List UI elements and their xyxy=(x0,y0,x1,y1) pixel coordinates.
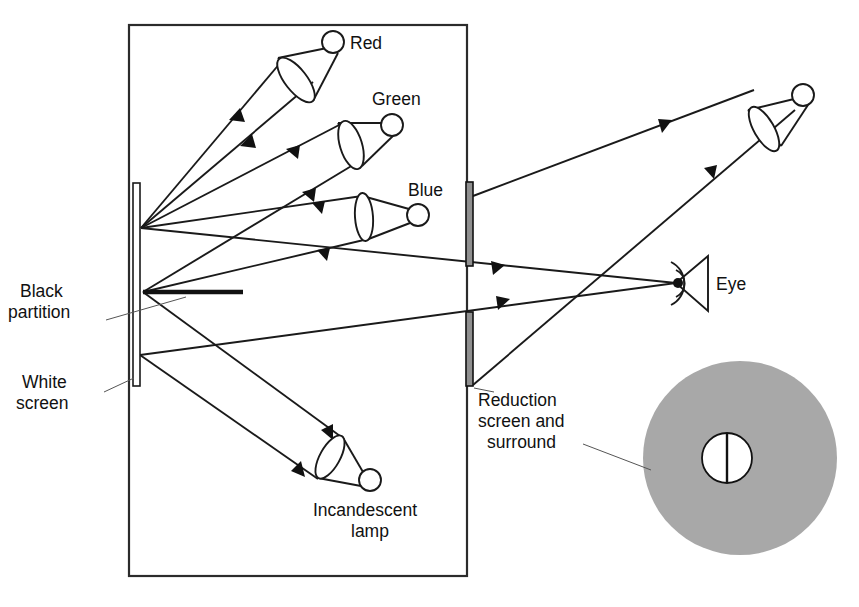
arrowhead-eye-ray-b xyxy=(496,296,510,310)
blue-lamp-label: Blue xyxy=(408,180,443,200)
incandescent-lamp-label-line2: lamp xyxy=(351,521,389,541)
arrowhead-blue-ray-a xyxy=(312,201,325,214)
green-lamp-label: Green xyxy=(372,89,421,109)
blue-lamp-bulb xyxy=(407,204,429,226)
optics-diagram: Red Green Blue Incandescent xyxy=(0,0,859,607)
reduction-field-view xyxy=(643,361,837,555)
eye-symbol: Eye xyxy=(671,256,746,311)
reduction-screen-lower-bar xyxy=(466,312,473,386)
reduction-screen-callout: Reduction screen and surround xyxy=(474,388,651,470)
outer-lamp-bulb xyxy=(792,84,814,106)
reduction-screen-upper-bar xyxy=(466,182,473,266)
reduction-leader-surround xyxy=(583,444,651,470)
outer-lamp-aperture xyxy=(743,102,785,155)
incandescent-lamp: Incandescent lamp xyxy=(310,431,418,541)
blue-lamp-aperture xyxy=(353,192,374,241)
black-partition-label-line1: Black xyxy=(20,281,63,301)
red-lamp: Red xyxy=(271,31,382,108)
white-screen-callout: White screen xyxy=(16,372,134,413)
red-lamp-label: Red xyxy=(350,33,382,53)
green-lamp: Green xyxy=(333,89,420,172)
white-screen-label-line1: White xyxy=(22,372,67,392)
reduction-label-line2: screen and xyxy=(478,411,565,431)
black-partition-leader xyxy=(106,297,186,320)
white-screen-label-line2: screen xyxy=(16,393,69,413)
arrowhead-blue-ray-b xyxy=(317,248,330,261)
eye-pupil xyxy=(673,278,683,288)
reduction-label-line3: surround xyxy=(487,432,556,452)
red-lamp-bulb xyxy=(322,31,344,53)
incandescent-lamp-bulb xyxy=(359,469,381,491)
arrowhead-incandescent-ray-b xyxy=(291,461,305,477)
white-screen xyxy=(133,183,140,386)
black-partition-label-line2: partition xyxy=(8,302,70,322)
green-lamp-aperture xyxy=(333,118,369,172)
arrowhead-red-ray-a xyxy=(229,108,245,122)
ray-group-incandescent xyxy=(140,292,340,479)
blue-lamp: Blue xyxy=(353,180,443,242)
red-lamp-aperture xyxy=(271,52,322,108)
incandescent-lamp-aperture xyxy=(310,431,351,483)
reduction-label-line1: Reduction xyxy=(478,390,557,410)
arrowhead-eye-ray-a xyxy=(491,261,505,275)
eye-label: Eye xyxy=(716,274,746,294)
figure-root: Red Green Blue Incandescent xyxy=(0,0,859,607)
arrowhead-outer-ray-b xyxy=(704,165,717,179)
incandescent-lamp-label-line1: Incandescent xyxy=(313,500,417,520)
green-lamp-bulb xyxy=(381,114,403,136)
black-partition-callout: Black partition xyxy=(8,281,186,322)
arrowhead-outer-ray-a xyxy=(658,119,672,133)
ray-group-outer-lamp xyxy=(473,90,795,385)
